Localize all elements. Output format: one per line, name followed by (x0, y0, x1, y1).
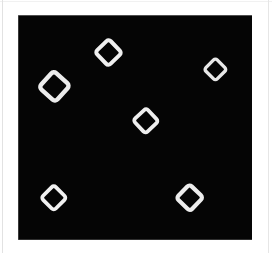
diamond-outline-icon (41, 185, 66, 210)
canvas-edge-left (18, 15, 19, 240)
marker-upper-left (36, 68, 73, 105)
frame-rule-right (268, 0, 269, 253)
diamond-outline-icon (133, 108, 158, 133)
marker-upper-right (201, 55, 230, 84)
marker-lower-left (38, 182, 70, 214)
diamond-outline-icon (38, 70, 69, 101)
canvas-edge-top (18, 15, 252, 16)
marker-top-center (92, 36, 125, 69)
frame-rule-left (2, 0, 3, 253)
marker-center (130, 105, 162, 137)
black-canvas (18, 15, 252, 240)
image-page (0, 0, 272, 253)
diamond-outline-icon (95, 39, 122, 66)
marker-lower-right (173, 181, 206, 214)
frame-rule-top (0, 1, 272, 2)
diamond-outline-icon (177, 185, 204, 212)
diamond-outline-icon (204, 58, 227, 81)
canvas-edge-bottom (18, 239, 252, 240)
